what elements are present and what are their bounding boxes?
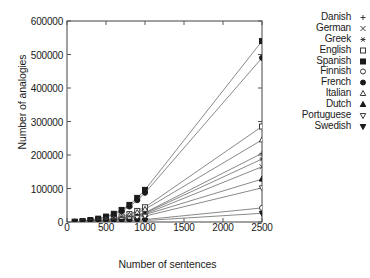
legend-marker-asterisk-icon: [356, 34, 370, 45]
x-tick-label: 2000: [212, 222, 233, 233]
legend-marker-triangle-down-open-icon: [356, 110, 370, 121]
x-tick-label: 0: [64, 222, 69, 233]
legend-marker-square-filled-icon: [356, 56, 370, 67]
x-tick-label: 1500: [173, 222, 194, 233]
legend-marker-triangle-down-filled-icon: [356, 121, 370, 132]
x-axis-label: Number of sentences: [60, 258, 275, 270]
legend-item-label: English: [320, 45, 351, 56]
series-english: [72, 124, 264, 224]
x-axis-tick-labels: 05001000150020002500: [0, 222, 370, 240]
legend-item-label: Swedish: [315, 121, 351, 132]
legend-marker-triangle-up-filled-icon: [356, 99, 370, 110]
series-danish: [72, 151, 264, 225]
legend-marker-square-open-icon: [356, 45, 370, 56]
legend-marker-circle-open-icon: [356, 66, 370, 77]
legend-marker-plus-icon: [356, 12, 370, 23]
chart-legend: DanishGermanGreekEnglishSpanishFinnishFr…: [286, 12, 370, 132]
x-tick-label: 2500: [251, 222, 272, 233]
legend-item-swedish[interactable]: Swedish: [286, 121, 370, 132]
axis-frame: [67, 21, 262, 222]
legend-item-english[interactable]: English: [286, 45, 370, 56]
legend-marker-triangle-up-open-icon: [356, 88, 370, 99]
x-tick-label: 1000: [134, 222, 155, 233]
series-french: [72, 55, 264, 224]
x-tick-label: 500: [98, 222, 114, 233]
legend-marker-cross-icon: [356, 23, 370, 34]
chart-figure: Number of analogies 01000002000003000004…: [0, 0, 370, 278]
legend-marker-circle-filled-icon: [356, 77, 370, 88]
series-spanish: [72, 39, 264, 225]
